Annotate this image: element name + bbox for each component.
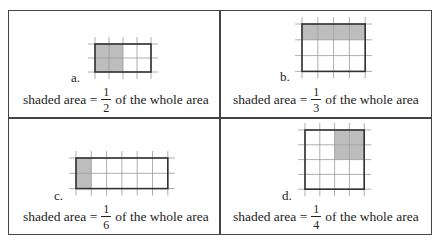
fraction: 1 2 (101, 86, 111, 114)
caption-prefix: shaded area = (233, 209, 307, 225)
denominator: 2 (103, 100, 109, 114)
panel-a-caption: shaded area = 1 2 of the whole area (23, 86, 209, 114)
denominator: 3 (313, 100, 319, 114)
denominator: 6 (103, 217, 109, 231)
panel-a-grid (88, 36, 160, 82)
caption-prefix: shaded area = (23, 209, 97, 225)
numerator: 1 (312, 86, 320, 99)
caption-suffix: of the whole area (325, 209, 418, 225)
panel-c-grid (68, 150, 178, 196)
numerator: 1 (102, 86, 110, 99)
panel-b-caption: shaded area = 1 3 of the whole area (233, 86, 419, 114)
fraction: 1 4 (311, 203, 321, 231)
caption-suffix: of the whole area (325, 92, 418, 108)
caption-prefix: shaded area = (233, 92, 307, 108)
caption-suffix: of the whole area (115, 209, 208, 225)
denominator: 4 (313, 217, 319, 231)
panel-b-label: b. (280, 69, 290, 85)
panel-a-label: a. (71, 70, 80, 86)
fraction: 1 6 (101, 203, 111, 231)
caption-prefix: shaded area = (23, 92, 97, 108)
panel-b-grid (294, 16, 374, 82)
caption-suffix: of the whole area (115, 92, 208, 108)
fraction: 1 3 (311, 86, 321, 114)
panel-c-caption: shaded area = 1 6 of the whole area (23, 203, 209, 231)
panel-d-grid (297, 122, 373, 200)
numerator: 1 (102, 203, 110, 216)
panel-d-caption: shaded area = 1 4 of the whole area (233, 203, 419, 231)
panel-d-label: d. (282, 188, 292, 204)
numerator: 1 (312, 203, 320, 216)
horizontal-divider (8, 117, 432, 119)
panel-c-label: c. (54, 188, 63, 204)
vertical-divider (219, 10, 221, 235)
